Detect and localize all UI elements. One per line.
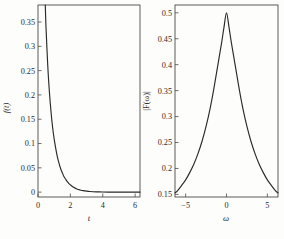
y-axis-ticks bbox=[175, 13, 179, 195]
x-axis-tick-labels: 0246 bbox=[36, 201, 137, 210]
x-axis-title: ω bbox=[223, 213, 229, 223]
y-tick-label: 0.35 bbox=[21, 18, 35, 27]
x-tick-label: 2 bbox=[68, 201, 72, 210]
x-axis-tick-labels: −505 bbox=[181, 201, 269, 210]
plot-area-right: 0.150.20.250.30.350.40.450.5 −505 ω |F(ω… bbox=[142, 5, 278, 223]
y-tick-label: 0.35 bbox=[158, 87, 172, 96]
y-tick-label: 0.3 bbox=[25, 42, 35, 51]
y-tick-label: 0.5 bbox=[162, 9, 172, 18]
y-axis-title: f(t) bbox=[1, 103, 11, 114]
y-tick-label: 0.2 bbox=[162, 164, 172, 173]
x-tick-label: −5 bbox=[181, 201, 190, 210]
chart-svg-left: 00.050.10.150.20.250.30.35 0246 t f(t) bbox=[0, 0, 142, 239]
plot-area-left: 00.050.10.150.20.250.30.35 0246 t f(t) bbox=[1, 5, 140, 223]
data-curve-ft bbox=[45, 5, 140, 192]
y-tick-label: 0.15 bbox=[21, 115, 35, 124]
x-tick-label: 0 bbox=[36, 201, 40, 210]
y-axis-title: |F(ω)| bbox=[142, 91, 151, 111]
x-axis-ticks bbox=[186, 194, 268, 198]
y-tick-label: 0.05 bbox=[21, 164, 35, 173]
y-tick-label: 0 bbox=[31, 188, 35, 197]
figure-container: 00.050.10.150.20.250.30.35 0246 t f(t) 0… bbox=[0, 0, 284, 239]
chart-svg-right: 0.150.20.250.30.350.40.450.5 −505 ω |F(ω… bbox=[142, 0, 284, 239]
x-tick-label: 5 bbox=[265, 201, 269, 210]
y-tick-label: 0.15 bbox=[158, 190, 172, 199]
x-tick-label: 0 bbox=[224, 201, 228, 210]
data-curve-spectrum bbox=[175, 13, 278, 193]
x-tick-label: 6 bbox=[133, 201, 137, 210]
chart-panel-right: 0.150.20.250.30.350.40.450.5 −505 ω |F(ω… bbox=[142, 0, 284, 239]
y-tick-label: 0.25 bbox=[21, 67, 35, 76]
x-axis-title: t bbox=[88, 213, 91, 223]
chart-panel-left: 00.050.10.150.20.250.30.35 0246 t f(t) bbox=[0, 0, 142, 239]
y-axis-tick-labels: 00.050.10.150.20.250.30.35 bbox=[21, 18, 35, 197]
y-tick-label: 0.25 bbox=[158, 138, 172, 147]
y-axis-ticks bbox=[38, 22, 42, 192]
y-tick-label: 0.1 bbox=[25, 139, 35, 148]
plot-frame bbox=[175, 5, 278, 197]
y-tick-label: 0.2 bbox=[25, 91, 35, 100]
y-tick-label: 0.4 bbox=[162, 61, 172, 70]
plot-frame bbox=[38, 5, 140, 197]
x-axis-ticks bbox=[38, 194, 135, 198]
y-axis-tick-labels: 0.150.20.250.30.350.40.450.5 bbox=[158, 9, 172, 200]
y-tick-label: 0.45 bbox=[158, 35, 172, 44]
x-tick-label: 4 bbox=[101, 201, 105, 210]
y-tick-label: 0.3 bbox=[162, 112, 172, 121]
